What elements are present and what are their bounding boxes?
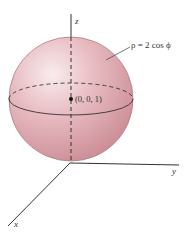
x-axis-label: x — [13, 219, 18, 229]
sphere-diagram: z y x ρ = 2 cos ϕ (0, 0, 1) — [0, 0, 192, 232]
point-label: (0, 0, 1) — [75, 94, 102, 104]
y-axis-label: y — [171, 166, 176, 176]
center-point — [69, 97, 73, 101]
equation-label: ρ = 2 cos ϕ — [131, 40, 171, 50]
y-axis — [70, 163, 179, 165]
z-axis-label: z — [74, 16, 79, 26]
x-axis — [8, 163, 70, 226]
